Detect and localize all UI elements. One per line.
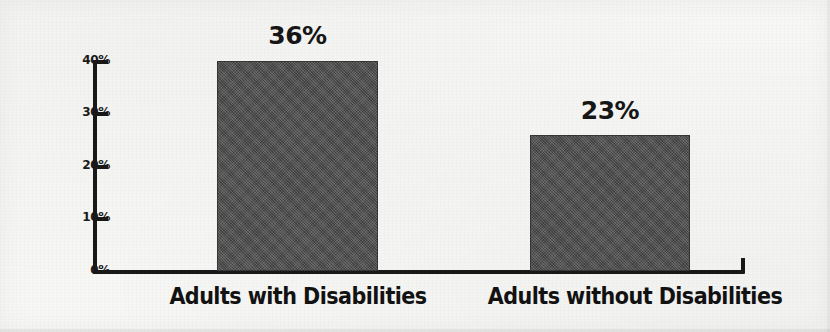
y-tick-row-10: 10%	[0, 217, 110, 221]
y-tick-mark-30	[93, 112, 108, 116]
chart-scan-page: 40% 30% 20% 10% 0% 36% 23% Adults with D…	[0, 0, 830, 332]
y-tick-mark-20	[93, 165, 108, 169]
x-category-label-1: Adults with Disabilities	[140, 283, 457, 309]
y-tick-mark-40	[93, 60, 108, 64]
bar-value-label-1: 36%	[217, 21, 378, 50]
x-axis-end-tick	[741, 258, 745, 272]
y-tick-mark-10	[93, 217, 108, 221]
y-tick-row-40: 40%	[0, 60, 110, 64]
y-tick-row-30: 30%	[0, 112, 110, 116]
y-tick-row-20: 20%	[0, 165, 110, 169]
bar-adults-with-disabilities	[217, 61, 378, 271]
bar-chart: 40% 30% 20% 10% 0% 36% 23% Adults with D…	[0, 0, 830, 332]
bar-adults-without-disabilities	[530, 135, 690, 271]
bar-value-label-2: 23%	[530, 96, 690, 125]
x-category-label-2: Adults without Disabilities	[460, 283, 811, 309]
